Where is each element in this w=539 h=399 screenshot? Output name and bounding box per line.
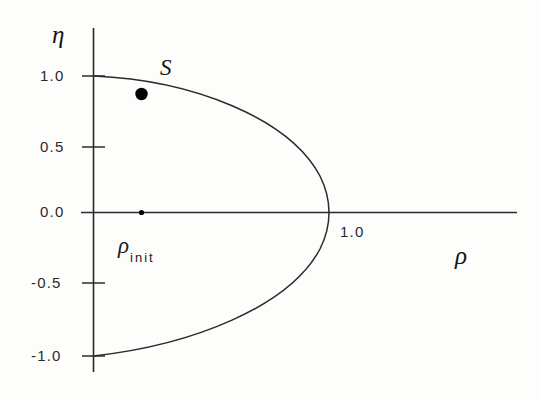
- rho-init-label: ρinit: [118, 234, 154, 261]
- y-tick-label-1-0: 1.0: [40, 68, 64, 83]
- y-tick-label-0-5: 0.5: [40, 139, 64, 154]
- rho-init-label-subscript: init: [130, 250, 155, 265]
- parabola-bifurcation-figure: η ρ 1.0 0.5 0.0 -0.5 -1.0 1.0 S ρinit: [0, 0, 539, 399]
- x-tick-label-1-0: 1.0: [340, 224, 364, 239]
- y-tick-label-0-0: 0.0: [40, 204, 64, 219]
- y-tick-label-minus-0-5: -0.5: [31, 275, 62, 290]
- rho-init-marker: [139, 210, 144, 215]
- y-tick-label-minus-1-0: -1.0: [31, 348, 62, 363]
- plot-canvas: [0, 0, 539, 399]
- parabola-upper-branch: [94, 76, 330, 213]
- rho-init-label-main: ρ: [118, 233, 129, 258]
- point-s-label: S: [160, 56, 172, 79]
- point-s-marker: [135, 88, 147, 100]
- x-axis-label: ρ: [455, 243, 467, 268]
- y-axis-label: η: [52, 22, 64, 47]
